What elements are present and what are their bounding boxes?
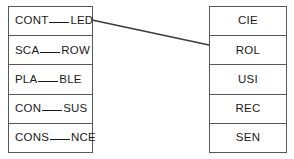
answer-4-label: REC (235, 103, 260, 115)
right-column-answers: CIE ROL USI REC SEN (209, 6, 287, 153)
answer-2-label: ROL (236, 45, 261, 57)
left-row-3[interactable]: PLABLE (9, 64, 92, 93)
term-5-suffix: NCE (71, 132, 96, 144)
answer-3-label: USI (238, 74, 258, 86)
connector-line-1[interactable] (92, 20, 209, 45)
left-column-terms: CONTLED SCAROW PLABLE CONSUS CONSNCE (8, 6, 93, 153)
left-row-2[interactable]: SCAROW (9, 35, 92, 64)
right-row-1[interactable]: CIE (210, 7, 286, 35)
term-2-suffix: ROW (61, 45, 90, 57)
term-1-blank[interactable] (49, 22, 69, 23)
term-3-suffix: BLE (59, 74, 81, 86)
answer-1-label: CIE (238, 15, 258, 27)
right-row-5[interactable]: SEN (210, 123, 286, 152)
term-5-prefix: CONS (15, 132, 49, 144)
term-1-prefix: CONT (15, 15, 48, 27)
left-row-4[interactable]: CONSUS (9, 94, 92, 123)
term-4-blank[interactable] (42, 110, 62, 111)
term-2-prefix: SCA (15, 45, 39, 57)
term-5: CONSNCE (15, 132, 96, 144)
term-1-suffix: LED (70, 15, 93, 27)
term-2-blank[interactable] (40, 52, 60, 53)
left-row-1[interactable]: CONTLED (9, 7, 92, 35)
right-row-4[interactable]: REC (210, 94, 286, 123)
left-row-5[interactable]: CONSNCE (9, 123, 92, 152)
term-4-suffix: SUS (63, 103, 87, 115)
term-3: PLABLE (15, 74, 82, 86)
term-4-prefix: CON (15, 103, 41, 115)
term-1: CONTLED (15, 15, 93, 27)
right-row-3[interactable]: USI (210, 64, 286, 93)
matching-exercise-diagram: CONTLED SCAROW PLABLE CONSUS CONSNCE CIE… (0, 0, 294, 159)
term-5-blank[interactable] (50, 139, 70, 140)
answer-5-label: SEN (236, 132, 261, 144)
term-3-blank[interactable] (38, 81, 58, 82)
term-3-prefix: PLA (15, 74, 37, 86)
right-row-2[interactable]: ROL (210, 35, 286, 64)
term-2: SCAROW (15, 45, 90, 57)
term-4: CONSUS (15, 103, 87, 115)
